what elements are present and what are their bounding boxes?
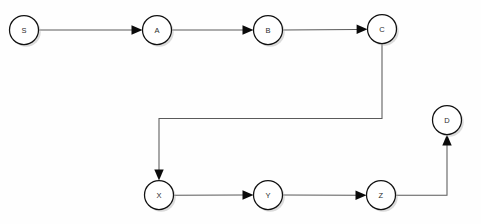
node-y-label: Y	[265, 191, 270, 200]
node-b-label: B	[265, 26, 270, 35]
edge-b-c-arrowhead	[357, 25, 368, 34]
node-s-label: S	[21, 26, 26, 35]
graph-svg: S A B C D X	[0, 0, 481, 224]
edge-s-a-arrowhead	[132, 25, 143, 34]
edge-c-x	[154, 44, 382, 181]
edge-b-c	[283, 25, 368, 34]
node-c-label: C	[379, 25, 385, 34]
node-z-label: Z	[379, 191, 384, 200]
node-d-label: D	[444, 116, 450, 125]
node-y[interactable]: Y	[254, 181, 283, 210]
edge-c-x-line	[159, 44, 382, 171]
node-layer: S A B C D X	[10, 15, 462, 210]
node-a-label: A	[154, 26, 159, 35]
node-shadow-layer	[12, 17, 464, 212]
edge-a-b-arrowhead	[243, 25, 254, 34]
node-a[interactable]: A	[143, 16, 172, 45]
node-x[interactable]: X	[145, 181, 174, 210]
edge-s-a	[39, 25, 143, 34]
edge-z-d-line	[396, 145, 448, 195]
diagram-canvas: S A B C D X	[0, 0, 481, 224]
edge-z-d	[396, 135, 452, 196]
node-s[interactable]: S	[10, 16, 39, 45]
node-b[interactable]: B	[254, 16, 283, 45]
node-z[interactable]: Z	[367, 181, 396, 210]
edge-layer	[39, 25, 452, 200]
node-x-label: X	[156, 191, 161, 200]
edge-x-y-arrowhead	[243, 190, 254, 199]
edge-x-y	[174, 190, 254, 199]
edge-y-z-arrowhead	[356, 191, 367, 200]
edge-b-c-line	[283, 29, 358, 30]
edge-y-z	[283, 191, 367, 200]
edge-a-b	[172, 25, 254, 34]
node-c[interactable]: C	[368, 15, 397, 44]
edge-c-x-arrowhead	[154, 170, 163, 181]
node-d[interactable]: D	[433, 106, 462, 135]
